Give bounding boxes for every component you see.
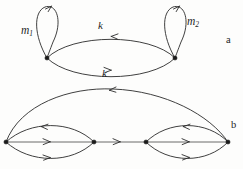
panel-b-left-upper-arc xyxy=(6,126,94,143)
panel-b-left-lower-arrowhead-right xyxy=(43,155,50,160)
panel-b-right-lower-arrowhead-right xyxy=(182,155,189,160)
panel-a-node-right xyxy=(173,56,177,60)
panel-a-upper-arc xyxy=(47,39,175,58)
panel-b-node-2 xyxy=(92,140,96,144)
label-k-lower: k xyxy=(102,68,107,79)
panel-b-node-1 xyxy=(4,140,8,144)
panel-letter-a: a xyxy=(226,34,231,45)
self-loop-m2-edge xyxy=(165,6,186,58)
panel-a-graph xyxy=(37,6,186,77)
label-m1-sub: 1 xyxy=(29,29,33,38)
panel-b-left-upper-arrowhead-left xyxy=(41,124,48,129)
panel-letter-b: b xyxy=(231,119,236,130)
panel-a-lower-arc xyxy=(47,58,175,77)
self-loop-m1-edge xyxy=(37,6,58,58)
panel-b-graph xyxy=(4,87,230,160)
panel-b-left-lower-arc xyxy=(6,142,94,159)
figure-container: m1 m2 k k a b xyxy=(0,0,243,169)
panel-a-upper-arrowhead-left xyxy=(111,34,118,39)
label-m2: m2 xyxy=(187,16,199,28)
panel-b-right-upper-arrowhead-left xyxy=(183,124,190,129)
panel-b-node-3 xyxy=(144,140,148,144)
label-m1: m1 xyxy=(21,25,33,37)
panel-b-long-arc xyxy=(6,89,228,142)
panel-b-node-4 xyxy=(226,140,230,144)
label-k-upper: k xyxy=(98,20,103,31)
panel-a-node-left xyxy=(45,56,49,60)
graph-drawing xyxy=(0,0,243,169)
label-m2-sub: 2 xyxy=(195,20,199,29)
panel-b-long-arc-arrowhead-left xyxy=(109,87,116,92)
panel-b-right-lower-arc xyxy=(146,142,228,159)
